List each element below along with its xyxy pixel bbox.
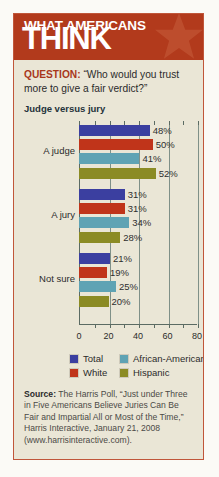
axis-tick [154, 324, 155, 328]
source-block: Source: The Harris Poll, “Just under Thr… [24, 389, 193, 446]
axis-tick [169, 324, 170, 328]
bar-value-label: 21% [113, 253, 132, 264]
bar-value-label: 31% [128, 203, 147, 214]
gridline [198, 121, 199, 324]
bar-value-label: 52% [159, 168, 178, 179]
bar [79, 232, 120, 243]
bar [79, 139, 153, 150]
axis-tick [183, 324, 184, 328]
legend-label: Total [83, 353, 103, 364]
legend-swatch [119, 354, 129, 364]
question-label: QUESTION: [24, 69, 81, 80]
axis-tick [183, 121, 184, 125]
source-label: Source: [24, 389, 56, 399]
x-axis-tick-label: 0 [76, 331, 81, 341]
bar-value-label: 34% [132, 217, 151, 228]
bar-value-label: 19% [110, 267, 129, 278]
bar [79, 189, 125, 200]
legend-label: Hispanic [133, 367, 169, 378]
bar-value-label: 28% [123, 232, 142, 243]
category-label: A judge [14, 145, 75, 156]
bar [79, 153, 139, 164]
category-label: A jury [14, 209, 75, 220]
bar-chart: 48%50%41%52%A judge31%31%34%28%A jury21%… [14, 119, 203, 351]
page-root: WHAT AMERICANS THINK QUESTION: “Who woul… [0, 0, 219, 477]
x-axis-tick-label: 80 [192, 331, 202, 341]
axis-tick [139, 324, 140, 328]
legend-label: White [83, 367, 107, 378]
bar-value-label: 41% [142, 153, 161, 164]
category-label: Not sure [14, 273, 75, 284]
legend-item: Hispanic [119, 367, 169, 378]
bar [79, 281, 116, 292]
bar [79, 267, 107, 278]
header-title-line2: THINK [22, 23, 111, 54]
x-axis-tick-label: 60 [162, 331, 172, 341]
legend-item: African-American [119, 353, 204, 364]
bar [79, 296, 109, 307]
bar [79, 217, 129, 228]
legend-label: African-American [133, 353, 204, 364]
gridline [169, 121, 170, 324]
chart-legend: TotalAfrican-AmericanWhiteHispanic [14, 353, 203, 385]
legend-swatch [69, 354, 79, 364]
bar-value-label: 31% [128, 189, 147, 200]
legend-swatch [119, 368, 129, 378]
chart-title: Judge versus jury [24, 103, 203, 114]
bar [79, 168, 156, 179]
question-block: QUESTION: “Who would you trust more to g… [24, 68, 193, 96]
bar-value-label: 25% [119, 281, 138, 292]
legend-item: White [69, 367, 107, 378]
star-icon [153, 14, 203, 60]
axis-tick [198, 324, 199, 328]
bar-value-label: 50% [156, 139, 175, 150]
bar [79, 125, 150, 136]
header-banner: WHAT AMERICANS THINK [14, 14, 203, 60]
axis-tick [198, 121, 199, 125]
axis-tick [110, 324, 111, 328]
legend-swatch [69, 368, 79, 378]
bar-value-label: 48% [153, 125, 172, 136]
axis-tick [124, 324, 125, 328]
x-axis-tick-label: 20 [103, 331, 113, 341]
bar-value-label: 20% [112, 296, 131, 307]
bar [79, 203, 125, 214]
x-axis-tick-label: 40 [133, 331, 143, 341]
bar [79, 253, 110, 264]
infographic-panel: WHAT AMERICANS THINK QUESTION: “Who woul… [13, 13, 204, 460]
legend-item: Total [69, 353, 103, 364]
axis-tick [95, 324, 96, 328]
